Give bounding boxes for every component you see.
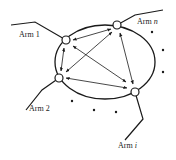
arrow-arm1-armi [73,46,126,82]
arm-1-label-prefix: Arm [19,30,34,39]
arm-2-node [55,74,63,82]
arm-n-node [113,21,121,29]
arm-2-label-index: 2 [46,104,50,113]
arm-i-label-prefix: Arm [118,141,133,150]
dot [151,31,153,33]
dot [162,71,164,73]
arm-i-label: Arm i [118,142,137,150]
dot [71,100,73,102]
central-ellipse [55,25,155,99]
ellipsis-dots [71,31,164,113]
arrow-arm2-armi [66,78,127,88]
arm-1-node [62,36,70,44]
arm-n-label: Arm n [137,18,158,26]
arm-i-node [131,88,139,96]
arm-2-label: Arm 2 [29,105,50,113]
arrow-armn-armi [120,33,133,84]
arm-1-label: Arm 1 [19,31,40,39]
connection-arrows [61,29,133,88]
dot [162,49,164,51]
arm-n-label-prefix: Arm [137,17,152,26]
dot [115,111,117,113]
arm-n-label-index: n [154,17,158,26]
dot [93,109,95,111]
arm-2-label-prefix: Arm [29,104,44,113]
arm-i-label-index: i [135,141,137,150]
arm-i-line [125,92,143,140]
arrow-arm1-arm2 [61,48,64,71]
arrow-arm2-armn [66,32,112,72]
arm-1-label-index: 1 [36,30,40,39]
